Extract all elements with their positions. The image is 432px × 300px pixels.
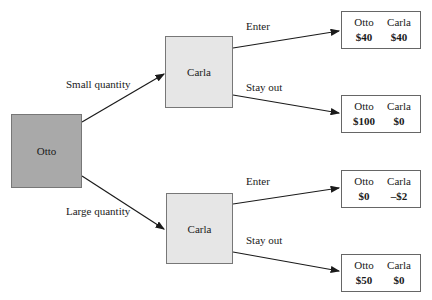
outcome-label-large-stay-out: Stay out — [246, 234, 282, 246]
branch-label-large-quantity: Large quantity — [66, 205, 130, 217]
payoff-player-name: Carla — [382, 15, 416, 30]
edge-small-stay-out — [233, 95, 339, 113]
node-label: Carla — [188, 223, 212, 235]
root-node-otto: Otto — [11, 114, 82, 188]
payoff-value: $0 — [382, 273, 416, 288]
decision-node-carla-large: Carla — [166, 193, 233, 264]
payoff-value: –$2 — [382, 189, 416, 204]
payoff-player-name: Carla — [382, 258, 416, 273]
payoff-box-small-enter: Otto$40 Carla$40 — [341, 11, 421, 49]
payoff-player-name: Otto — [348, 15, 380, 30]
outcome-label-small-stay-out: Stay out — [246, 81, 282, 93]
root-node-label: Otto — [37, 145, 57, 157]
payoff-value: $40 — [382, 30, 416, 45]
payoff-box-large-enter: Otto$0 Carla–$2 — [341, 170, 421, 208]
payoff-player-name: Otto — [348, 99, 380, 114]
payoff-value: $0 — [382, 114, 416, 129]
edge-small-enter — [233, 31, 339, 48]
payoff-player-name: Otto — [348, 258, 380, 273]
outcome-label-small-enter: Enter — [246, 20, 270, 32]
node-label: Carla — [187, 66, 211, 78]
decision-node-carla-small: Carla — [165, 36, 233, 108]
payoff-value: $50 — [348, 273, 380, 288]
edge-large-enter — [233, 188, 339, 204]
edge-large-stay-out — [233, 252, 339, 271]
branch-label-small-quantity: Small quantity — [66, 78, 130, 90]
payoff-box-small-stay-out: Otto$100 Carla$0 — [341, 95, 421, 133]
edge-large-quantity — [82, 176, 164, 229]
payoff-player-name: Carla — [382, 174, 416, 189]
outcome-label-large-enter: Enter — [246, 175, 270, 187]
payoff-value: $40 — [348, 30, 380, 45]
payoff-player-name: Carla — [382, 99, 416, 114]
payoff-value: $100 — [348, 114, 380, 129]
payoff-box-large-stay-out: Otto$50 Carla$0 — [341, 254, 421, 292]
payoff-value: $0 — [348, 189, 380, 204]
payoff-player-name: Otto — [348, 174, 380, 189]
